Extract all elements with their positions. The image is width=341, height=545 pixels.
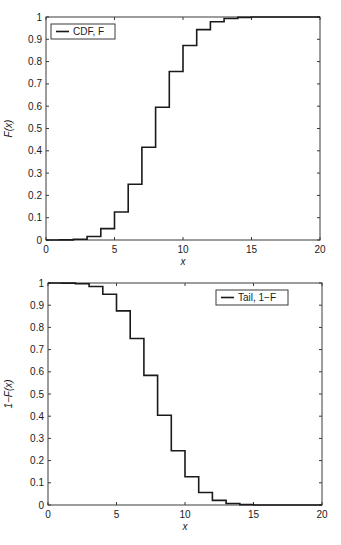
y-tick-label: 0 [38,500,44,511]
y-tick-label: 0.2 [30,455,44,466]
y-tick-label: 0.4 [28,145,42,156]
y-tick-label: 1 [36,12,42,23]
y-tick-label: 0.5 [30,389,44,400]
legend-label: CDF, F [73,26,104,37]
y-tick-label: 0.9 [28,34,42,45]
cdf-chart: 0510152000.10.20.30.40.50.60.70.80.91xF(… [3,12,326,268]
step-series [48,283,322,505]
y-tick-label: 0.3 [30,433,44,444]
step-series [46,17,320,240]
legend: Tail, 1−F [216,290,288,305]
y-axis-label: 1−F(x) [3,379,14,408]
y-tick-label: 0.1 [30,477,44,488]
y-tick-label: 0.8 [28,56,42,67]
x-tick-label: 20 [314,244,326,255]
y-tick-label: 0.7 [28,78,42,89]
y-tick-label: 0.3 [28,168,42,179]
y-tick-label: 1 [38,278,44,289]
legend-label: Tail, 1−F [238,292,276,303]
y-tick-label: 0.5 [28,123,42,134]
y-tick-label: 0.8 [30,322,44,333]
x-tick-label: 5 [114,509,120,520]
y-tick-label: 0.1 [28,212,42,223]
legend: CDF, F [51,24,115,39]
x-tick-label: 0 [43,244,49,255]
x-tick-label: 5 [112,244,118,255]
figure: 0510152000.10.20.30.40.50.60.70.80.91xF(… [0,0,341,545]
tail-chart: 0510152000.10.20.30.40.50.60.70.80.91x1−… [3,278,328,533]
y-tick-label: 0.6 [30,366,44,377]
x-axis-label: x [180,256,187,267]
x-axis-label: x [182,521,189,532]
x-tick-label: 10 [177,244,189,255]
y-tick-label: 0.4 [30,411,44,422]
y-tick-label: 0.9 [30,300,44,311]
y-tick-label: 0 [36,235,42,246]
x-tick-label: 15 [246,244,258,255]
y-tick-label: 0.2 [28,190,42,201]
x-tick-label: 15 [248,509,260,520]
y-axis-label: F(x) [3,120,14,138]
x-tick-label: 10 [179,509,191,520]
y-tick-label: 0.7 [30,344,44,355]
x-tick-label: 20 [316,509,328,520]
x-tick-label: 0 [45,509,51,520]
y-tick-label: 0.6 [28,101,42,112]
